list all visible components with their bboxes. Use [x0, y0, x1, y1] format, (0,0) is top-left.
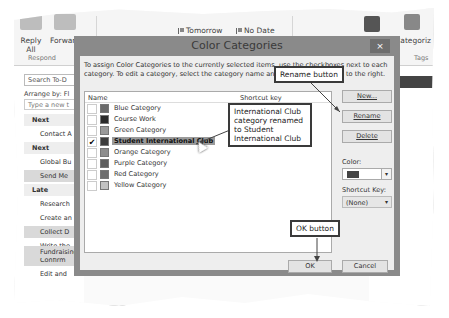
- color-swatch: [100, 126, 109, 135]
- color-swatch: [100, 159, 109, 168]
- no-date-button[interactable]: No Date: [236, 26, 275, 35]
- flag-icon: [178, 28, 184, 34]
- category-name[interactable]: Orange Category: [112, 148, 173, 156]
- category-checkbox[interactable]: [87, 181, 97, 191]
- new-button[interactable]: New...: [342, 90, 392, 103]
- tomorrow-button[interactable]: Tomorrow: [178, 26, 222, 35]
- category-row-orange[interactable]: Orange Category: [85, 147, 331, 158]
- dialog-title: Color Categories: [80, 36, 394, 56]
- shortcut-key-dropdown[interactable]: (None) ▾: [342, 196, 392, 208]
- color-swatch: [100, 137, 109, 146]
- color-categories-dialog: Color Categories × To assign Color Categ…: [74, 36, 400, 276]
- reply-all-icon: [20, 14, 42, 30]
- instructions-text: To assign Color Categories to the curren…: [84, 61, 394, 79]
- delete-button[interactable]: Delete: [342, 130, 392, 143]
- list-header: Name Shortcut key: [85, 92, 331, 103]
- close-icon: ×: [376, 41, 384, 51]
- color-label: Color:: [342, 158, 361, 166]
- rename-button-callout: Rename button: [274, 66, 344, 83]
- selected-color-swatch: [347, 171, 359, 178]
- respond-group-label: Respond: [22, 54, 62, 62]
- renamed-category-callout: International Club category renamed to S…: [228, 103, 312, 147]
- color-swatch: [100, 104, 109, 113]
- close-button[interactable]: ×: [370, 39, 390, 53]
- check-icon: ✔: [89, 138, 96, 147]
- category-name[interactable]: Purple Category: [112, 159, 169, 167]
- category-name[interactable]: Green Category: [112, 126, 168, 134]
- shortcut-key-label: Shortcut Key:: [342, 186, 386, 194]
- chevron-down-icon[interactable]: ▾: [381, 169, 391, 179]
- category-name[interactable]: Blue Category: [112, 104, 163, 112]
- rename-button[interactable]: Rename: [342, 110, 392, 123]
- arrange-by-label[interactable]: Arrange by: Fl: [24, 90, 69, 98]
- categorize-icon: [404, 14, 420, 30]
- category-checkbox[interactable]: [87, 159, 97, 169]
- flag-icon: [236, 28, 242, 34]
- category-checkbox[interactable]: [87, 126, 97, 136]
- category-checkbox-checked[interactable]: ✔: [87, 137, 97, 147]
- category-name[interactable]: Red Category: [112, 170, 161, 178]
- color-swatch: [100, 170, 109, 179]
- category-name[interactable]: Yellow Category: [112, 181, 169, 189]
- category-name[interactable]: Course Work: [112, 115, 158, 123]
- category-checkbox[interactable]: [87, 170, 97, 180]
- category-row-yellow[interactable]: Yellow Category: [85, 180, 331, 191]
- name-column-header: Name: [88, 94, 107, 102]
- category-row-red[interactable]: Red Category: [85, 169, 331, 180]
- category-row-purple[interactable]: Purple Category: [85, 158, 331, 169]
- ok-button-callout: OK button: [290, 220, 340, 237]
- tags-group-label: Tags: [414, 54, 428, 62]
- category-checkbox[interactable]: [87, 115, 97, 125]
- color-swatch: [100, 181, 109, 190]
- onenote-icon: [364, 16, 380, 32]
- category-checkbox[interactable]: [87, 148, 97, 158]
- dialog-body: To assign Color Categories to the curren…: [80, 56, 394, 270]
- color-swatch: [100, 148, 109, 157]
- cancel-button[interactable]: Cancel: [342, 260, 388, 273]
- ok-button[interactable]: OK: [288, 260, 332, 273]
- color-swatch: [100, 115, 109, 124]
- shortcut-column-header: Shortcut key: [240, 94, 282, 102]
- color-dropdown[interactable]: ▾: [342, 168, 392, 180]
- category-checkbox[interactable]: [87, 104, 97, 114]
- reply-all-button[interactable]: Reply All: [16, 36, 46, 54]
- chevron-down-icon: ▾: [385, 198, 388, 205]
- forward-icon: [54, 14, 76, 30]
